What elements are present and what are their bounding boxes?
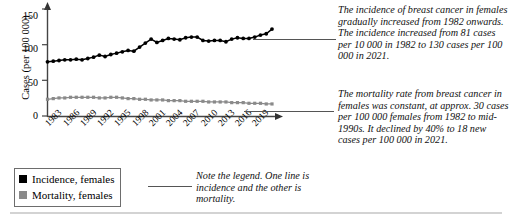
leader-line-legend	[148, 186, 192, 187]
data-point-marker	[115, 96, 118, 99]
data-point-marker	[126, 97, 129, 100]
data-point-marker	[161, 98, 164, 101]
data-point-marker	[166, 37, 170, 41]
legend-label-incidence: Incidence, females	[32, 174, 114, 185]
data-point-marker	[155, 41, 159, 45]
data-point-marker	[236, 36, 240, 40]
data-point-marker	[247, 37, 251, 41]
data-point-marker	[51, 59, 55, 63]
data-point-marker	[57, 59, 61, 63]
annotation-incidence: The incidence of breast cancer in female…	[338, 4, 510, 62]
chart-axes	[44, 2, 283, 120]
breast-cancer-incidence-mortality-figure: Cases (per 100 000) 050100150 1983198619…	[0, 0, 512, 222]
data-point-marker	[259, 33, 263, 37]
data-point-marker	[242, 101, 245, 104]
data-point-marker	[63, 96, 66, 99]
data-point-marker	[69, 58, 73, 62]
data-point-marker	[109, 96, 112, 99]
data-point-marker	[103, 55, 107, 59]
data-point-marker	[230, 37, 234, 41]
legend-label-mortality: Mortality, females	[32, 190, 113, 201]
data-point-marker	[46, 60, 50, 64]
chart-legend: Incidence, females Mortality, females	[14, 168, 121, 207]
data-point-marker	[63, 58, 67, 62]
data-point-marker	[219, 100, 222, 103]
y-tick-label-0: 0	[12, 110, 38, 121]
data-point-marker	[224, 100, 227, 103]
data-point-marker	[161, 39, 165, 43]
chart-plot-area: Cases (per 100 000) 050100150 1983198619…	[0, 0, 290, 165]
data-point-marker	[167, 99, 170, 102]
data-point-marker	[143, 41, 147, 45]
data-point-marker	[69, 96, 72, 99]
leader-line-incidence	[253, 39, 336, 40]
annotation-legend-note: Note the legend. One line is incidence a…	[196, 170, 316, 205]
bottom-divider	[10, 212, 502, 214]
data-point-marker	[80, 58, 84, 62]
data-point-marker	[190, 35, 194, 39]
data-point-marker	[172, 37, 176, 41]
series-incidence	[46, 27, 274, 64]
data-point-marker	[98, 96, 101, 99]
data-point-marker	[247, 102, 250, 105]
data-point-marker	[80, 96, 83, 99]
data-point-marker	[144, 98, 147, 101]
data-point-marker	[97, 53, 101, 57]
data-point-marker	[132, 97, 135, 100]
data-point-marker	[184, 36, 188, 40]
data-point-marker	[75, 96, 78, 99]
data-point-marker	[150, 98, 153, 101]
data-point-marker	[265, 102, 268, 105]
data-point-marker	[230, 101, 233, 104]
data-point-marker	[178, 38, 182, 42]
legend-item-mortality: Mortality, females	[19, 187, 114, 203]
data-point-marker	[184, 100, 187, 103]
data-point-marker	[218, 39, 222, 43]
data-point-marker	[253, 102, 256, 105]
data-point-marker	[138, 45, 142, 49]
data-point-marker	[241, 37, 245, 41]
data-point-marker	[120, 50, 124, 54]
data-point-marker	[86, 57, 90, 61]
data-point-marker	[201, 39, 205, 43]
data-point-marker	[74, 57, 78, 61]
data-point-marker	[196, 100, 199, 103]
data-point-marker	[190, 100, 193, 103]
data-point-marker	[132, 49, 136, 53]
series-line	[48, 29, 273, 62]
data-point-marker	[270, 102, 273, 105]
annotation-mortality: The mortality rate from breast cancer in…	[338, 88, 510, 146]
data-point-marker	[126, 49, 130, 53]
data-point-marker	[103, 96, 106, 99]
data-point-marker	[138, 98, 141, 101]
data-point-marker	[52, 97, 55, 100]
data-point-marker	[86, 96, 89, 99]
x-axis-arrowhead	[275, 113, 283, 120]
data-point-marker	[57, 96, 60, 99]
data-point-marker	[178, 99, 181, 102]
y-tick-label-100: 100	[12, 43, 38, 54]
data-point-marker	[121, 96, 124, 99]
legend-swatch-incidence	[19, 175, 27, 183]
leader-line-mortality	[244, 111, 334, 112]
data-point-marker	[109, 53, 113, 57]
chart-series-layer	[46, 27, 274, 105]
data-point-marker	[264, 32, 268, 36]
data-point-marker	[207, 39, 211, 43]
data-point-marker	[270, 27, 274, 31]
data-point-marker	[46, 98, 49, 101]
data-point-marker	[224, 40, 228, 44]
series-mortality	[46, 96, 274, 106]
legend-swatch-mortality	[19, 191, 27, 199]
data-point-marker	[149, 37, 153, 41]
data-point-marker	[173, 99, 176, 102]
data-point-marker	[213, 100, 216, 103]
data-point-marker	[201, 100, 204, 103]
data-point-marker	[259, 102, 262, 105]
data-point-marker	[115, 51, 119, 55]
line-chart-svg	[0, 0, 290, 165]
data-point-marker	[155, 98, 158, 101]
data-point-marker	[92, 96, 95, 99]
data-point-marker	[213, 39, 217, 43]
data-point-marker	[236, 101, 239, 104]
